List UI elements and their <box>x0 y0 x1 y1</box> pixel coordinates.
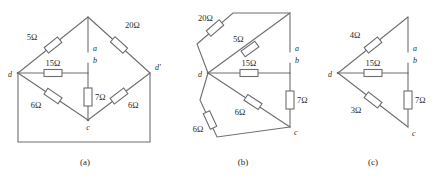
terminal-label-d: d <box>328 70 333 79</box>
resistor-body-3-ohm <box>364 92 382 108</box>
resistor-body-15-ohm <box>240 70 258 77</box>
terminal-label-d-prime: d' <box>155 63 161 72</box>
terminal-label-a: a <box>295 44 299 53</box>
resistor-body-20-ohm <box>110 37 127 54</box>
panel-caption-c: (c) <box>368 157 378 167</box>
resistor-label-6-ohm-left: 6Ω <box>31 100 42 110</box>
resistor-label-15-ohm: 15Ω <box>242 58 257 68</box>
resistor-label-7-ohm: 7Ω <box>415 95 426 105</box>
resistor-label-6-ohm-outer: 6Ω <box>193 124 204 134</box>
panel-caption-b: (b) <box>238 157 249 167</box>
resistor-label-7-ohm: 7Ω <box>95 92 106 102</box>
resistor-body-15-ohm <box>364 70 382 77</box>
resistor-label-20-ohm: 20Ω <box>125 20 140 30</box>
resistor-label-6-ohm-right: 6Ω <box>128 100 139 110</box>
terminal-label-b: b <box>295 56 299 65</box>
panel-a: 5Ω 20Ω 15Ω 7Ω 6Ω 6Ω a b c d d' (a) <box>8 17 161 167</box>
terminal-label-a: a <box>413 44 417 53</box>
node-d <box>207 72 210 75</box>
figure-canvas: 5Ω 20Ω 15Ω 7Ω 6Ω 6Ω a b c d d' (a) <box>0 0 438 176</box>
node-d <box>17 72 20 75</box>
terminal-label-c: c <box>412 129 416 138</box>
resistor-label-4-ohm: 4Ω <box>350 30 361 40</box>
panel-b: 20Ω 5Ω 15Ω 7Ω 6Ω 6Ω a b c d (b) <box>193 13 308 167</box>
terminal-label-b: b <box>413 56 417 65</box>
terminal-label-d: d <box>198 70 203 79</box>
resistor-label-15-ohm: 15Ω <box>366 58 381 68</box>
resistor-label-20-ohm: 20Ω <box>198 13 213 23</box>
resistor-label-3-ohm: 3Ω <box>351 105 362 115</box>
circuit-figure: 5Ω 20Ω 15Ω 7Ω 6Ω 6Ω a b c d d' (a) <box>0 0 438 176</box>
resistor-body-7-ohm <box>286 91 294 109</box>
node-d <box>337 72 340 75</box>
terminal-label-c: c <box>294 128 298 137</box>
resistor-body-7-ohm <box>84 88 92 106</box>
resistor-label-15-ohm: 15Ω <box>46 58 61 68</box>
resistor-label-5-ohm: 5Ω <box>27 32 38 42</box>
panel-a-resistors <box>44 37 128 106</box>
resistor-body-5-ohm <box>241 41 259 57</box>
resistor-body-5-ohm <box>44 37 62 53</box>
resistor-body-7-ohm <box>404 91 412 109</box>
panel-b-resistors <box>203 20 294 129</box>
terminal-label-d: d <box>8 70 13 79</box>
terminal-label-c: c <box>86 123 90 132</box>
resistor-label-6-ohm-inner: 6Ω <box>235 107 246 117</box>
resistor-body-15-ohm <box>44 70 62 77</box>
resistor-body-6-ohm-left <box>44 88 62 103</box>
terminal-label-a: a <box>93 44 97 53</box>
resistor-label-5-ohm: 5Ω <box>233 34 244 44</box>
resistor-label-7-ohm: 7Ω <box>297 95 308 105</box>
resistor-body-6-ohm-right <box>110 88 128 104</box>
resistor-body-6-ohm-outer <box>203 111 216 129</box>
resistor-body-6-ohm-inner <box>244 94 262 109</box>
panel-c: 4Ω 15Ω 3Ω 7Ω a b c d (c) <box>328 17 426 167</box>
terminal-label-b: b <box>93 56 97 65</box>
node-c <box>87 119 90 122</box>
panel-caption-a: (a) <box>80 157 90 167</box>
resistor-body-4-ohm <box>364 37 382 53</box>
